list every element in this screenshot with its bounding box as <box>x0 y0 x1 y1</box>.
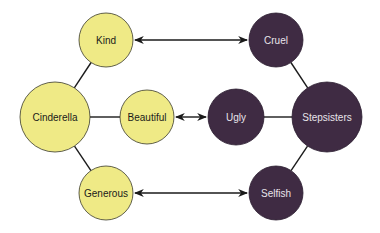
node-stepsisters: Stepsisters <box>292 82 362 152</box>
node-label: Kind <box>96 35 116 46</box>
node-kind: Kind <box>79 13 133 67</box>
connector-cinderella-generous <box>75 146 91 171</box>
node-label: Generous <box>84 188 128 199</box>
concept-map: KindCinderellaBeautifulGenerousCruelUgly… <box>0 0 380 233</box>
node-selfish: Selfish <box>249 166 303 220</box>
node-cruel: Cruel <box>249 13 303 67</box>
node-cinderella: Cinderella <box>20 82 90 152</box>
node-beautiful: Beautiful <box>120 90 174 144</box>
connector-stepsisters-selfish <box>291 146 307 171</box>
connector-stepsisters-cruel <box>291 63 308 88</box>
node-generous: Generous <box>79 166 133 220</box>
node-ugly: Ugly <box>208 89 264 145</box>
node-label: Ugly <box>226 112 246 123</box>
concept-map-canvas: KindCinderellaBeautifulGenerousCruelUgly… <box>0 0 380 233</box>
node-label: Stepsisters <box>302 112 351 123</box>
node-label: Beautiful <box>128 112 167 123</box>
node-label: Cruel <box>264 35 288 46</box>
connector-cinderella-kind <box>74 63 91 88</box>
node-label: Cinderella <box>32 112 77 123</box>
node-label: Selfish <box>261 188 291 199</box>
